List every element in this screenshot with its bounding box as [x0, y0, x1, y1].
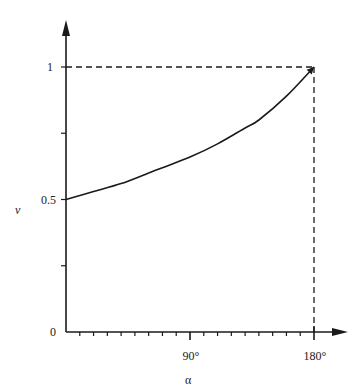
y-axis-arrow-icon — [62, 20, 70, 36]
y-tick-label-0.5: 0.5 — [26, 194, 56, 206]
dashed-guides — [66, 67, 314, 332]
data-curve — [66, 67, 314, 200]
y-tick-label-1: 1 — [23, 61, 53, 73]
y-tick-label-0: 0 — [26, 326, 56, 338]
axes — [62, 20, 348, 336]
x-axis-label: α — [185, 374, 191, 386]
x-axis-arrow-icon — [332, 328, 348, 336]
x-tick-label-180: 180° — [295, 350, 335, 362]
series-line-v — [66, 67, 314, 200]
x-tick-label-90: 90° — [171, 350, 211, 362]
ticks — [61, 67, 314, 340]
y-axis-label: v — [15, 204, 20, 216]
